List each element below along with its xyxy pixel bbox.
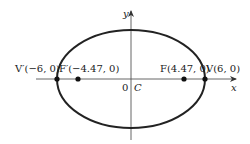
vertex-v-label: V(6, 0) bbox=[205, 63, 240, 74]
focus-f-prime-label: F′(−4.47, 0) bbox=[59, 63, 119, 74]
focus-f-label: F(4.47, 0) bbox=[160, 63, 210, 74]
origin-zero-label: 0 bbox=[122, 82, 128, 93]
vertex-v-prime-point bbox=[54, 76, 59, 81]
focus-f-point bbox=[181, 76, 186, 81]
x-axis-label: x bbox=[231, 82, 237, 93]
center-label: C bbox=[134, 82, 142, 93]
y-axis-label: y bbox=[122, 8, 129, 19]
vertex-v-prime-label: V′(−6, 0) bbox=[14, 63, 60, 74]
vertex-v-point bbox=[202, 76, 207, 81]
ellipse-diagram: y x 0 C V′(−6, 0) F′(−4.47, 0) F(4.47, 0… bbox=[0, 0, 250, 144]
focus-f-prime-point bbox=[75, 76, 80, 81]
